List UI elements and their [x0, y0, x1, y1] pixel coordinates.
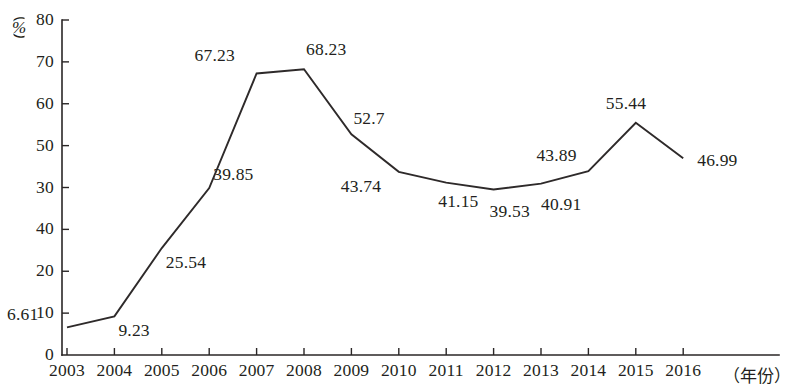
y-axis-tick-label: 20 [12, 262, 54, 280]
y-axis-tick-label: 40 [12, 220, 54, 238]
data-point-label: 6.61 [7, 306, 38, 324]
data-point-label: 39.85 [213, 166, 253, 184]
y-axis-tick-label: 50 [12, 137, 54, 155]
data-point-label: 43.89 [536, 147, 576, 165]
axes-group [62, 20, 779, 355]
y-axis-ticks [62, 20, 69, 313]
data-point-label: 68.23 [306, 41, 346, 59]
data-point-label: 41.15 [438, 193, 478, 211]
line-chart: （ % ） 80706050304020100 2003200420052006… [0, 0, 798, 386]
data-point-label: 43.74 [341, 178, 381, 196]
data-point-label: 9.23 [118, 322, 149, 340]
data-point-label: 39.53 [490, 203, 530, 221]
data-point-label: 40.91 [541, 196, 581, 214]
y-axis-tick-label: 80 [12, 11, 54, 29]
y-axis-tick-label: 0 [12, 346, 54, 364]
y-axis-tick-label: 60 [12, 95, 54, 113]
data-point-label: 25.54 [166, 254, 206, 272]
data-point-label: 55.44 [606, 95, 646, 113]
data-point-label: 46.99 [697, 152, 737, 170]
y-axis-tick-label: 70 [12, 53, 54, 71]
x-axis-unit-label: （年份） [723, 362, 791, 386]
data-point-label: 52.7 [353, 110, 384, 128]
x-axis-tick-label: 2016 [654, 362, 712, 380]
data-point-label: 67.23 [195, 47, 235, 65]
x-axis-ticks [67, 348, 683, 355]
y-axis-tick-label: 30 [12, 179, 54, 197]
